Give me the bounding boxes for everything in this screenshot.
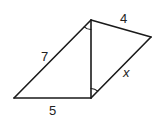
label-top-right-side: 4 (120, 11, 127, 26)
right-diagonal-side (91, 37, 151, 98)
geometry-diagram: 4 7 x 5 (0, 0, 160, 124)
left-diagonal-side (14, 20, 91, 98)
angle-mark-top (84, 27, 91, 30)
label-right-diagonal: x (122, 65, 130, 80)
label-left-diagonal: 7 (41, 49, 48, 64)
angle-mark-bottom (91, 88, 98, 91)
label-bottom-side: 5 (49, 103, 56, 118)
